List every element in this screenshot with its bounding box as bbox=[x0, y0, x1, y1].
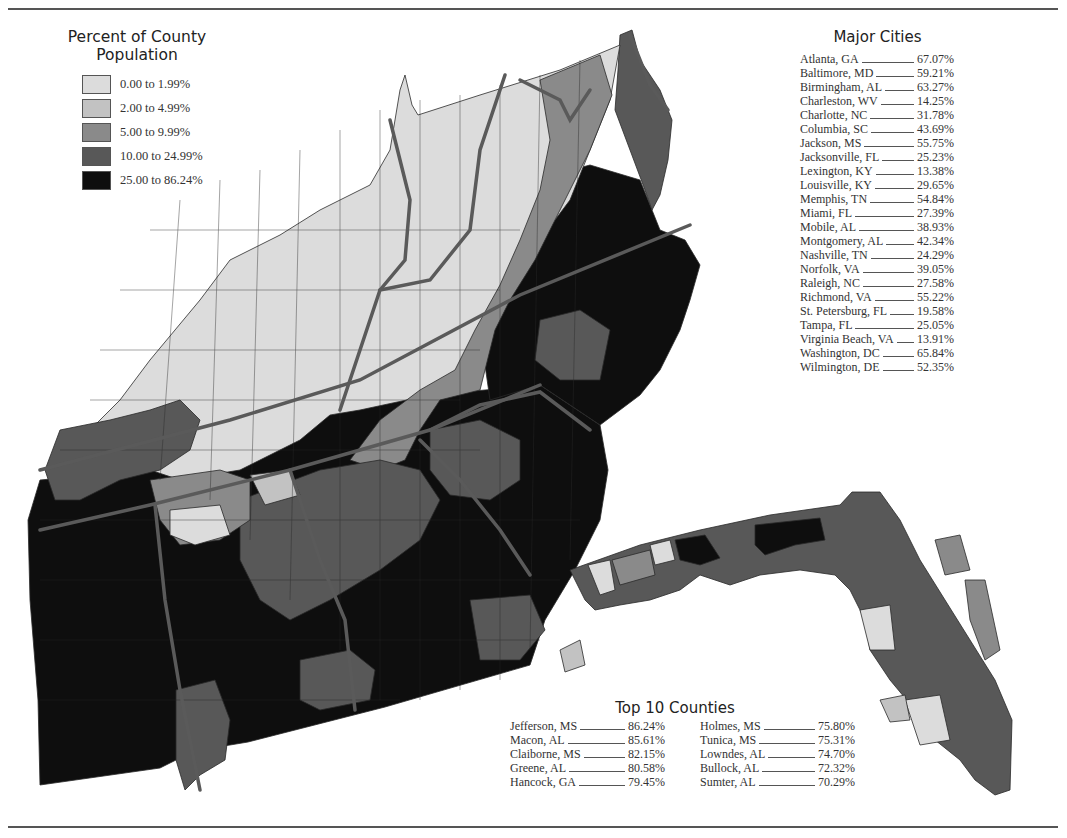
city-row: St. Petersburg, FL19.58% bbox=[800, 304, 954, 318]
row-name: Jacksonville, FL bbox=[800, 150, 879, 164]
legend-item: 0.00 to 1.99% bbox=[82, 72, 262, 96]
row-name: Claiborne, MS bbox=[510, 747, 581, 761]
legend-item: 2.00 to 4.99% bbox=[82, 96, 262, 120]
row-value: 55.75% bbox=[917, 136, 954, 150]
city-row: Charlotte, NC31.78% bbox=[800, 108, 954, 122]
city-row: Wilmington, DE52.35% bbox=[800, 360, 954, 374]
city-row: Virginia Beach, VA13.91% bbox=[800, 332, 954, 346]
row-value: 14.25% bbox=[917, 94, 954, 108]
row-name: Wilmington, DE bbox=[800, 360, 880, 374]
leader-line bbox=[579, 785, 625, 786]
leader-line bbox=[569, 771, 625, 772]
row-name: Tunica, MS bbox=[700, 733, 756, 747]
city-row: Tampa, FL25.05% bbox=[800, 318, 954, 332]
row-name: Holmes, MS bbox=[700, 719, 761, 733]
legend: Percent of County Population 0.00 to 1.9… bbox=[62, 28, 262, 192]
county-row: Sumter, AL70.29% bbox=[700, 775, 855, 789]
row-name: Charleston, WV bbox=[800, 94, 878, 108]
leader-line bbox=[881, 104, 914, 105]
leader-line bbox=[885, 90, 914, 91]
row-name: Montgomery, AL bbox=[800, 234, 883, 248]
legend-item: 5.00 to 9.99% bbox=[82, 120, 262, 144]
leader-line bbox=[876, 76, 914, 77]
legend-swatch bbox=[82, 123, 111, 142]
legend-label: 10.00 to 24.99% bbox=[120, 149, 203, 164]
leader-line bbox=[883, 370, 914, 371]
row-value: 29.65% bbox=[917, 178, 954, 192]
leader-line bbox=[897, 342, 914, 343]
city-row: Louisville, KY29.65% bbox=[800, 178, 954, 192]
city-row: Jackson, MS55.75% bbox=[800, 136, 954, 150]
row-name: Greene, AL bbox=[510, 761, 566, 775]
leader-line bbox=[870, 202, 914, 203]
leader-line bbox=[762, 771, 815, 772]
county-row: Greene, AL80.58% bbox=[510, 761, 665, 775]
row-value: 85.61% bbox=[628, 733, 665, 747]
row-value: 25.23% bbox=[917, 150, 954, 164]
row-value: 79.45% bbox=[628, 775, 665, 789]
major-cities-title: Major Cities bbox=[800, 28, 955, 46]
legend-swatch bbox=[82, 171, 111, 190]
row-value: 27.58% bbox=[917, 276, 954, 290]
row-value: 27.39% bbox=[917, 206, 954, 220]
row-value: 75.80% bbox=[818, 719, 855, 733]
row-name: St. Petersburg, FL bbox=[800, 304, 887, 318]
leader-line bbox=[859, 230, 914, 231]
county-row: Holmes, MS75.80% bbox=[700, 719, 855, 733]
city-row: Raleigh, NC27.58% bbox=[800, 276, 954, 290]
legend-label: 2.00 to 4.99% bbox=[120, 101, 190, 116]
county-row: Jefferson, MS86.24% bbox=[510, 719, 665, 733]
row-value: 52.35% bbox=[917, 360, 954, 374]
leader-line bbox=[855, 216, 914, 217]
row-value: 63.27% bbox=[917, 80, 954, 94]
fl-light-3 bbox=[860, 605, 895, 650]
city-row: Columbia, SC43.69% bbox=[800, 122, 954, 136]
leader-line bbox=[759, 785, 815, 786]
legend-swatch bbox=[82, 75, 111, 94]
row-value: 74.70% bbox=[818, 747, 855, 761]
row-value: 75.31% bbox=[818, 733, 855, 747]
row-value: 82.15% bbox=[628, 747, 665, 761]
leader-line bbox=[584, 757, 625, 758]
legend-item: 25.00 to 86.24% bbox=[82, 168, 262, 192]
row-name: Mobile, AL bbox=[800, 220, 856, 234]
city-row: Memphis, TN54.84% bbox=[800, 192, 954, 206]
row-name: Jackson, MS bbox=[800, 136, 861, 150]
row-name: Lexington, KY bbox=[800, 164, 873, 178]
row-name: Jefferson, MS bbox=[510, 719, 577, 733]
leader-line bbox=[759, 743, 815, 744]
row-name: Norfolk, VA bbox=[800, 262, 860, 276]
row-value: 80.58% bbox=[628, 761, 665, 775]
leader-line bbox=[568, 743, 625, 744]
fl-light-2 bbox=[650, 540, 675, 565]
legend-title: Percent of County Population bbox=[62, 28, 212, 64]
top-counties-title: Top 10 Counties bbox=[500, 699, 850, 717]
city-row: Richmond, VA55.22% bbox=[800, 290, 954, 304]
row-value: 19.58% bbox=[917, 304, 954, 318]
row-name: Raleigh, NC bbox=[800, 276, 860, 290]
city-row: Lexington, KY13.38% bbox=[800, 164, 954, 178]
legend-title-line2: Population bbox=[62, 46, 212, 64]
row-name: Birmingham, AL bbox=[800, 80, 882, 94]
region-light-3 bbox=[560, 640, 585, 672]
row-name: Hancock, GA bbox=[510, 775, 576, 789]
row-name: Tampa, FL bbox=[800, 318, 852, 332]
city-row: Charleston, WV14.25% bbox=[800, 94, 954, 108]
legend-label: 25.00 to 86.24% bbox=[120, 173, 203, 188]
leader-line bbox=[886, 244, 914, 245]
row-name: Atlanta, GA bbox=[800, 52, 859, 66]
leader-line bbox=[876, 174, 914, 175]
top-counties-panel: Top 10 Counties Jefferson, MS86.24%Macon… bbox=[510, 699, 860, 789]
leader-line bbox=[870, 118, 914, 119]
row-name: Louisville, KY bbox=[800, 178, 872, 192]
row-name: Lowndes, AL bbox=[700, 747, 765, 761]
leader-line bbox=[875, 300, 914, 301]
city-row: Washington, DC65.84% bbox=[800, 346, 954, 360]
county-row: Lowndes, AL74.70% bbox=[700, 747, 855, 761]
county-row: Hancock, GA79.45% bbox=[510, 775, 665, 789]
row-name: Macon, AL bbox=[510, 733, 565, 747]
leader-line bbox=[768, 757, 815, 758]
row-value: 59.21% bbox=[917, 66, 954, 80]
row-value: 43.69% bbox=[917, 122, 954, 136]
fl-light-5 bbox=[880, 695, 910, 722]
